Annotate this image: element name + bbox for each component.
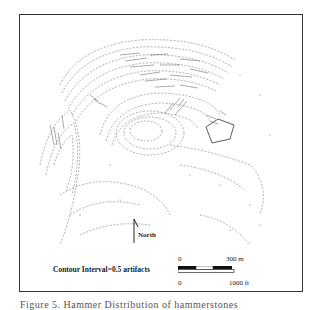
north-arrow-icon (128, 215, 168, 245)
north-label: North (138, 231, 156, 239)
site-polygon (206, 119, 234, 143)
contour-interval-label: Contour Interval=0.5 artifacts (53, 265, 150, 274)
figure-caption: Figure 5. Hammer Distribution of hammers… (20, 299, 238, 310)
scale-imperial-start: 0 (178, 279, 182, 287)
scale-metric-start: 0 (178, 255, 182, 263)
scale-metric-end: 300 m (226, 255, 244, 263)
scale-bar (178, 266, 236, 276)
contour-map (20, 15, 303, 292)
scale-imperial-end: 1000 ft (229, 279, 249, 287)
map-frame: North Contour Interval=0.5 artifacts 0 3… (19, 14, 303, 292)
